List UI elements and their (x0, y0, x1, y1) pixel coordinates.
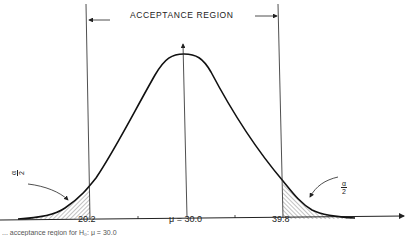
alpha-denominator: 2 (18, 171, 25, 175)
normal-distribution-diagram (0, 0, 407, 236)
alpha-denominator: 2 (342, 188, 346, 195)
figure-caption-partial: ... acceptance region for H₀: μ = 30.0 (2, 229, 117, 236)
upper-bound-line (278, 4, 283, 218)
mean-label: μ = 30.0 (169, 214, 202, 224)
right-tail-alpha-label: α 2 (341, 180, 347, 195)
alpha-numerator: α (10, 171, 17, 175)
lower-critical-value-label: 20.2 (78, 214, 96, 224)
left-tail-callout-arrow (28, 184, 68, 200)
upper-critical-value-label: 39.8 (272, 214, 290, 224)
acceptance-region-title: ACCEPTANCE REGION (130, 10, 234, 20)
right-tail-callout-arrow (310, 177, 338, 197)
mean-line (183, 44, 187, 217)
alpha-numerator: α (342, 180, 346, 187)
left-tail-alpha-label: α 2 (10, 170, 25, 176)
